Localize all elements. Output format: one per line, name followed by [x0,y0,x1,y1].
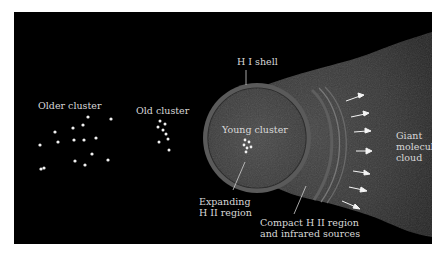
young-cluster-label: Young cluster [222,124,288,135]
compact-hii-label-line1: Compact H II region [260,217,359,228]
gmc-label-line1: Giant [396,130,422,141]
gmc-label-line3: cloud [396,152,422,163]
old-cluster-label: Old cluster [136,105,189,116]
expanding-hii-label-line2: H II region [199,207,252,218]
star-formation-diagram: Older cluster Old cluster H I shell Youn… [14,12,432,244]
expanding-hii-label-line1: Expanding [199,196,250,207]
expanding-hii-region [203,83,311,193]
compact-hii-label-line2: and infrared sources [260,228,360,239]
hi-shell-label: H I shell [237,56,278,67]
older-cluster-stars [38,115,112,170]
old-cluster-stars [157,120,171,152]
gmc-label-line2: molecular [396,141,432,152]
older-cluster-label: Older cluster [38,100,101,111]
